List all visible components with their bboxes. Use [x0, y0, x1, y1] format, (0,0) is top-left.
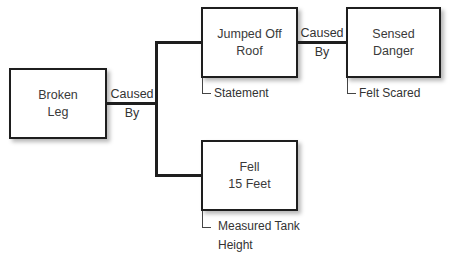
- evidence-bracket-measured-v: [202, 211, 203, 227]
- evidence-bracket-felt-h: [347, 93, 356, 94]
- edge-label-1-line1: Caused: [107, 86, 157, 103]
- edge-label-2-line1: Caused: [297, 25, 347, 42]
- node-sensed-line2: Danger: [373, 43, 414, 60]
- edge-label-caused-by-2: Caused By: [297, 25, 347, 61]
- evidence-measured-line1: Measured Tank: [218, 218, 300, 235]
- connector-to-jumped: [155, 41, 202, 44]
- evidence-bracket-felt-v: [347, 78, 348, 93]
- node-broken-leg-line2: Leg: [48, 104, 69, 121]
- edge-label-2-line2: By: [297, 44, 347, 61]
- connector-trunk: [155, 41, 158, 176]
- node-broken-leg-line1: Broken: [38, 87, 78, 104]
- edge-label-caused-by-1: Caused By: [107, 86, 157, 122]
- node-fell-15-feet: Fell 15 Feet: [201, 140, 298, 211]
- evidence-bracket-statement-v: [202, 78, 203, 93]
- connector-to-fell: [155, 174, 202, 177]
- evidence-statement: Statement: [214, 85, 269, 102]
- node-sensed-line1: Sensed: [372, 26, 414, 43]
- evidence-felt-scared: Felt Scared: [359, 85, 420, 102]
- node-sensed-danger: Sensed Danger: [346, 7, 441, 78]
- node-broken-leg: Broken Leg: [9, 68, 107, 139]
- node-fell-line2: 15 Feet: [228, 176, 270, 193]
- evidence-bracket-measured-h: [202, 227, 211, 228]
- edge-label-1-line2: By: [107, 105, 157, 122]
- node-jumped-line2: Roof: [236, 43, 262, 60]
- node-fell-line1: Fell: [239, 159, 259, 176]
- node-jumped-off-roof: Jumped Off Roof: [201, 7, 298, 78]
- evidence-measured-tank-height: Measured Tank Height: [218, 218, 300, 254]
- node-jumped-line1: Jumped Off: [217, 26, 281, 43]
- evidence-bracket-statement-h: [202, 93, 211, 94]
- evidence-measured-line2: Height: [218, 237, 300, 254]
